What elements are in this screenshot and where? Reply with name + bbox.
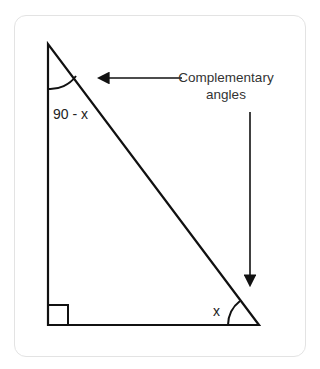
bottom-angle-arc <box>228 301 240 325</box>
triangle-diagram <box>0 0 320 369</box>
annotation-line2: angles <box>176 86 276 103</box>
top-angle-arc <box>48 76 76 89</box>
right-angle-marker <box>48 305 68 325</box>
annotation-line1: Complementary <box>176 69 276 86</box>
top-angle-label: 90 - x <box>53 106 88 122</box>
complementary-annotation: Complementary angles <box>176 69 276 103</box>
bottom-angle-label: x <box>213 303 220 319</box>
